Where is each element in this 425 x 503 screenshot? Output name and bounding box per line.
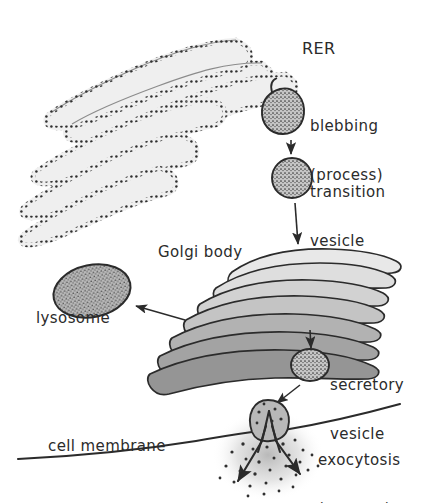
label-lysosome: lysosome [36, 310, 110, 326]
label-rer: RER [302, 40, 336, 57]
label-cell-membrane: cell membrane [48, 438, 166, 454]
label-transition-vesicle: transition vesicle [310, 152, 385, 282]
arrow-golgi-to-secretory-vesicle [310, 330, 311, 348]
rough-endoplasmic-reticulum [20, 40, 296, 245]
arrow-golgi-to-lysosome [136, 306, 185, 320]
secretory-vesicle [291, 349, 329, 381]
label-exocytosis-line1: exocytosis [318, 452, 401, 468]
cell-secretory-pathway-diagram: RER blebbing (process) transition vesicl… [0, 0, 425, 503]
label-transition-line2: vesicle [310, 233, 385, 249]
arrow-transition-to-golgi [295, 203, 298, 244]
arrow-secretory-to-exocytosis [277, 385, 300, 403]
label-exocytosis: exocytosis (process) [318, 420, 401, 503]
label-secretory-line1: secretory [330, 377, 404, 393]
label-blebbing-line1: blebbing [310, 118, 383, 134]
transition-vesicle [272, 158, 312, 198]
label-transition-line1: transition [310, 184, 385, 200]
label-golgi-body: Golgi body [158, 244, 243, 260]
